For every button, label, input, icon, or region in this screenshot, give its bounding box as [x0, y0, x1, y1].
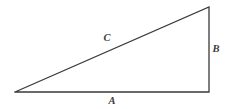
side-label-vertical-leg: B	[213, 44, 220, 55]
triangle-figure-canvas: C B A	[0, 0, 229, 109]
side-label-hypotenuse: C	[104, 33, 111, 44]
triangle-drawing	[0, 0, 229, 109]
side-label-base: A	[109, 96, 116, 107]
triangle-outline-path	[15, 7, 209, 92]
